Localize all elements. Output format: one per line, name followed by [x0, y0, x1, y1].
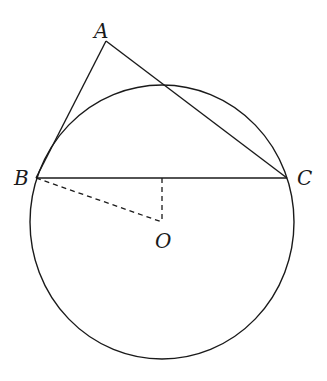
label-c: C	[297, 166, 312, 190]
segment-ab	[36, 41, 106, 178]
segment-ac	[106, 41, 287, 178]
segment-bo-dashed	[36, 178, 162, 222]
label-b: B	[13, 166, 29, 190]
diagram-canvas: A B C O	[0, 0, 327, 381]
geometry-diagram: A B C O	[0, 0, 327, 381]
label-o: O	[155, 229, 171, 253]
label-a: A	[92, 19, 108, 43]
